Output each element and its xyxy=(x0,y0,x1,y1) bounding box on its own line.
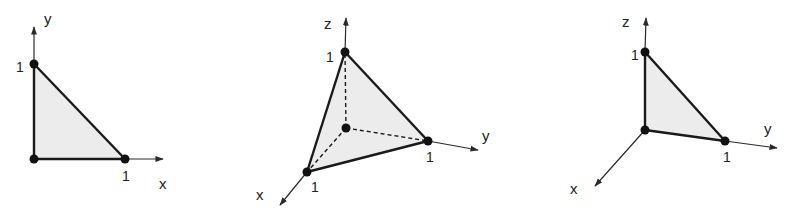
x-axis-label: x xyxy=(570,180,578,197)
y-axis-arrow xyxy=(725,141,777,148)
vertex-y1 xyxy=(721,137,730,146)
vertex-z1 xyxy=(641,48,650,57)
vertex-x1 xyxy=(121,155,130,164)
figure-canvas: y x 1 1 z y x 1 1 1 xyxy=(0,0,795,219)
vertex-y1 xyxy=(424,137,433,146)
y-axis-label: y xyxy=(482,127,490,144)
vertex-z1 xyxy=(341,48,350,57)
tick-y1: 1 xyxy=(16,59,24,75)
tick-z1: 1 xyxy=(631,47,639,63)
z-axis-arrow xyxy=(345,18,346,52)
vertex-origin xyxy=(30,155,39,164)
panel-3d-yz-triangle: z y x 1 1 xyxy=(570,13,777,197)
panel-3d-tetrahedron: z y x 1 1 1 xyxy=(256,15,490,205)
x-axis-label: x xyxy=(159,175,167,192)
vertex-x1 xyxy=(303,168,312,177)
y-axis-label: y xyxy=(764,120,772,137)
tick-z1: 1 xyxy=(326,49,334,65)
vertex-origin xyxy=(342,124,351,133)
tick-x1: 1 xyxy=(311,179,319,195)
tick-y1: 1 xyxy=(426,149,434,165)
vertex-origin xyxy=(641,126,650,135)
z-axis-arrow xyxy=(645,18,646,52)
x-axis-arrow xyxy=(280,172,307,205)
y-axis-label: y xyxy=(44,10,52,27)
tick-y1: 1 xyxy=(723,149,731,165)
z-axis-label: z xyxy=(622,13,630,30)
vertex-y1 xyxy=(30,60,39,69)
x-axis-arrow xyxy=(595,130,645,186)
tick-x1: 1 xyxy=(122,168,130,184)
figure-svg: y x 1 1 z y x 1 1 1 xyxy=(0,0,795,219)
x-axis-label: x xyxy=(256,186,264,203)
z-axis-label: z xyxy=(324,15,332,32)
y-axis-arrow xyxy=(428,141,478,150)
panel-2d-triangle: y x 1 1 xyxy=(16,10,167,192)
